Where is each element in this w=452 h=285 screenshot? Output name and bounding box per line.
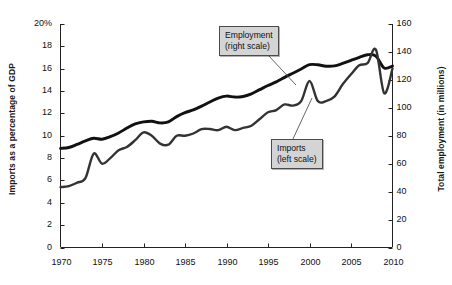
x-axis-ticklabel-1995: 1995: [249, 257, 289, 267]
y-axis-left-ticklabel-8: 8: [18, 152, 52, 162]
y-axis-right-ticklabel-60: 60: [397, 158, 431, 168]
legend-callout-imports-line1: Imports: [277, 143, 317, 154]
x-axis-ticklabel-1970: 1970: [42, 257, 82, 267]
x-axis-ticklabel-1985: 1985: [166, 257, 206, 267]
x-axis-ticklabel-2010: 2010: [374, 257, 414, 267]
legend-callout-employment-line2: (right scale): [225, 41, 273, 52]
chart-container: Imports as a percentage of GDP Total emp…: [0, 0, 452, 285]
data-series-group: [61, 49, 393, 187]
y-axis-left-ticklabel-4: 4: [18, 197, 52, 207]
y-axis-right-ticklabel-160: 160: [397, 18, 431, 28]
series-line-imports: [61, 49, 393, 187]
y-axis-right-ticklabel-80: 80: [397, 130, 431, 140]
y-axis-left-ticklabel-0: 0: [18, 242, 52, 252]
y-axis-left-ticklabel-10: 10: [18, 130, 52, 140]
x-axis-ticklabel-2005: 2005: [332, 257, 372, 267]
x-axis-ticklabel-1990: 1990: [208, 257, 248, 267]
y-axis-left-ticklabel-20: 20%: [18, 18, 52, 28]
leader-line-employment: [268, 55, 296, 85]
y-axis-left-ticklabel-6: 6: [18, 174, 52, 184]
y-axis-right-ticklabel-40: 40: [397, 186, 431, 196]
legend-callout-imports[interactable]: Imports (left scale): [271, 139, 323, 169]
y-axis-left-ticklabel-14: 14: [18, 85, 52, 95]
y-axis-right-ticklabel-140: 140: [397, 46, 431, 56]
legend-callout-employment-line1: Employment: [225, 30, 273, 41]
legend-callout-employment[interactable]: Employment (right scale): [219, 26, 279, 56]
x-axis-ticklabel-2000: 2000: [291, 257, 331, 267]
x-axis-ticklabel-1980: 1980: [125, 257, 165, 267]
y-axis-right-ticklabel-120: 120: [397, 74, 431, 84]
y-axis-left-ticklabel-16: 16: [18, 63, 52, 73]
x-axis-ticklabel-1975: 1975: [83, 257, 123, 267]
y-axis-left-ticklabel-2: 2: [18, 219, 52, 229]
legend-callout-imports-line2: (left scale): [277, 154, 317, 165]
y-axis-left-ticklabel-12: 12: [18, 107, 52, 117]
y-axis-right-ticklabel-100: 100: [397, 102, 431, 112]
series-line-employment: [61, 54, 393, 148]
y-axis-left-ticklabel-18: 18: [18, 40, 52, 50]
y-axis-right-ticklabel-20: 20: [397, 214, 431, 224]
y-axis-right-ticklabel-0: 0: [397, 242, 431, 252]
